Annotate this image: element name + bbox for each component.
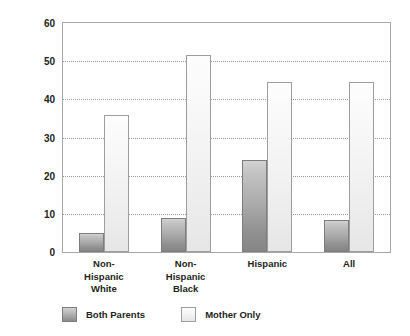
bar-both-parents-0 — [79, 233, 104, 252]
y-tick-label-40: 40 — [25, 94, 55, 105]
chart-legend: Both ParentsMother Only — [62, 303, 297, 325]
bar-mother-only-0 — [104, 115, 129, 252]
bar-both-parents-3 — [324, 220, 349, 252]
y-tick-label-50: 50 — [25, 56, 55, 67]
bar-both-parents-2 — [242, 160, 267, 252]
x-label-1: Non- Hispanic Black — [145, 258, 227, 296]
poverty-bar-chart: Percent Living in Poverty 0102030405060 … — [0, 0, 410, 336]
y-tick-label-10: 10 — [25, 208, 55, 219]
legend-item-both-parents[interactable]: Both Parents — [62, 307, 145, 322]
plot-area — [62, 22, 391, 253]
legend-item-mother-only[interactable]: Mother Only — [181, 307, 260, 322]
x-label-0: Non- Hispanic White — [63, 258, 145, 296]
x-label-2: Hispanic — [227, 258, 309, 271]
bar-mother-only-1 — [186, 55, 211, 252]
legend-swatch-icon — [181, 307, 196, 322]
y-tick-label-60: 60 — [25, 18, 55, 29]
gridline-40 — [63, 99, 390, 100]
gridline-50 — [63, 61, 390, 62]
y-tick-label-0: 0 — [25, 247, 55, 258]
legend-swatch-icon — [62, 307, 77, 322]
y-tick-label-20: 20 — [25, 170, 55, 181]
legend-label: Both Parents — [86, 309, 145, 320]
bar-mother-only-2 — [267, 82, 292, 252]
y-tick-label-30: 30 — [25, 132, 55, 143]
bar-both-parents-1 — [161, 218, 186, 252]
bar-mother-only-3 — [349, 82, 374, 252]
legend-label: Mother Only — [205, 309, 260, 320]
x-label-3: All — [308, 258, 390, 271]
